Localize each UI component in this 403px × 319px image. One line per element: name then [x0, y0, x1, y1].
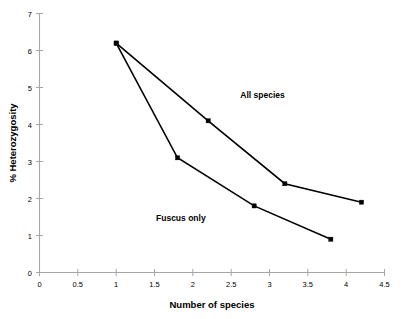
- y-tick-label-6: 6: [28, 47, 32, 56]
- series-1-marker-3: [329, 237, 333, 241]
- x-tick-label-4: 2: [191, 280, 195, 289]
- series-1-marker-0: [114, 41, 118, 45]
- y-axis-title: % Heterozygosity: [7, 103, 18, 183]
- y-tick-label-7: 7: [28, 10, 32, 19]
- x-tick-label-6: 3: [267, 280, 271, 289]
- x-tick-label-3: 1.5: [149, 280, 159, 289]
- x-axis-title: Number of species: [170, 299, 255, 310]
- x-tick-label-7: 3.5: [303, 280, 313, 289]
- series-0-marker-1: [206, 119, 210, 123]
- y-tick-label-1: 1: [28, 232, 32, 241]
- y-tick-label-3: 3: [28, 158, 32, 167]
- x-tick-label-0: 0: [37, 280, 41, 289]
- x-tick-label-5: 2.5: [226, 280, 236, 289]
- x-tick-label-9: 4.5: [379, 280, 389, 289]
- series-1-marker-2: [252, 204, 256, 208]
- x-tick-label-2: 1: [114, 280, 118, 289]
- line-chart: 0 1 2 3 4 5 6 7 0 0.5 1 1.5 2 2.5 3 3.5 …: [0, 0, 403, 319]
- series-line-1: [116, 43, 331, 239]
- x-tick-label-1: 0.5: [73, 280, 83, 289]
- series-annotation-fuscus-only: Fuscus only: [156, 213, 206, 223]
- series-0-marker-3: [359, 200, 363, 204]
- series-layer: [114, 41, 364, 241]
- series-0-marker-2: [283, 182, 287, 186]
- y-tick-label-2: 2: [28, 195, 32, 204]
- y-tick-label-0: 0: [28, 269, 32, 278]
- series-annotation-all-species: All species: [240, 90, 285, 100]
- chart-figure: 0 1 2 3 4 5 6 7 0 0.5 1 1.5 2 2.5 3 3.5 …: [0, 0, 403, 319]
- y-tick-label-5: 5: [28, 84, 32, 93]
- series-1-marker-1: [175, 156, 179, 160]
- y-tick-label-4: 4: [28, 121, 32, 130]
- x-tick-label-8: 4: [344, 280, 348, 289]
- series-line-0: [116, 43, 361, 202]
